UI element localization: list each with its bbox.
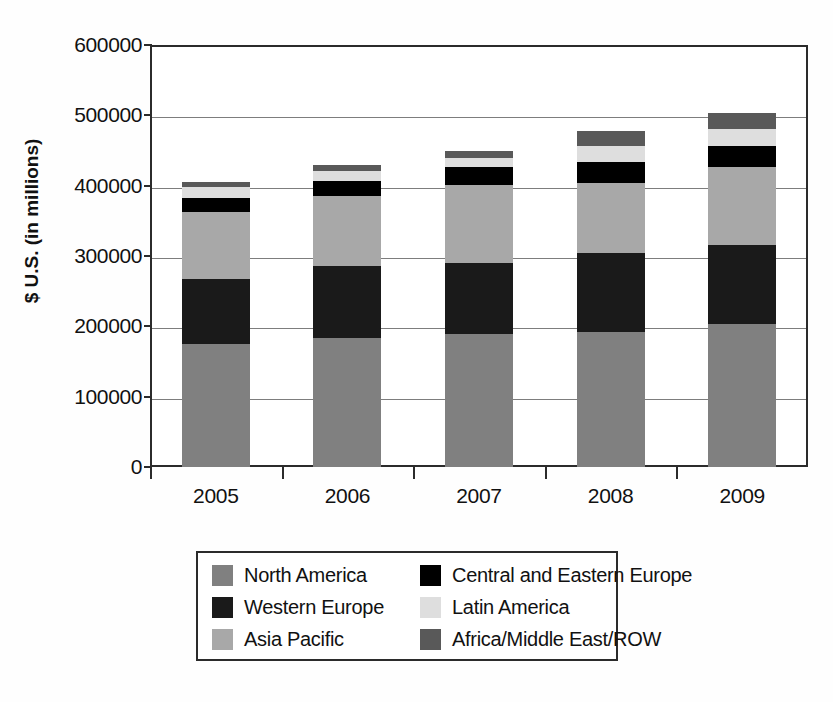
bar-segment [313,165,381,171]
bar-2005 [182,182,250,467]
bar-segment [445,185,513,263]
stacked-bar-chart: $ U.S. (in millions) 0100000200000300000… [0,0,833,702]
legend-label: Central and Eastern Europe [452,564,692,587]
y-tick-label: 100000 [74,385,142,409]
bar-segment [313,266,381,338]
y-tick-label: 400000 [74,174,142,198]
bar-segment [445,158,513,168]
x-tick-label-2005: 2005 [161,484,271,508]
legend-swatch-icon [212,565,233,586]
legend-swatch-icon [212,597,233,618]
bar-2008 [577,131,645,467]
y-tick-label: 200000 [74,314,142,338]
legend-item[interactable]: Asia Pacific [212,626,344,652]
legend-swatch-icon [420,565,441,586]
legend-item[interactable]: North America [212,562,367,588]
y-tick-label: 300000 [74,244,142,268]
bar-segment [445,334,513,467]
bar-segment [182,344,250,467]
bar-segment [313,181,381,196]
bar-segment [708,324,776,467]
bar-segment [708,167,776,244]
bar-segment [577,162,645,183]
bar-segment [445,263,513,334]
legend-swatch-icon [212,629,233,650]
bar-segment [708,129,776,146]
bar-2007 [445,151,513,468]
bar-segment [445,151,513,158]
bars-layer [150,45,808,467]
x-tick-mark [282,467,284,479]
x-tick-label-2009: 2009 [687,484,797,508]
y-tick-label: 0 [131,455,142,479]
legend-label: Asia Pacific [244,628,344,651]
y-tick-label: 500000 [74,103,142,127]
legend: North AmericaCentral and Eastern EuropeW… [196,551,618,661]
legend-label: Western Europe [244,596,384,619]
y-axis-tick-labels: 0100000200000300000400000500000600000 [0,0,142,512]
bar-segment [182,198,250,213]
legend-item[interactable]: Central and Eastern Europe [420,562,692,588]
bar-segment [313,171,381,181]
bar-segment [708,146,776,168]
bar-segment [577,332,645,467]
bar-segment [182,212,250,279]
legend-label: North America [244,564,367,587]
bar-segment [182,187,250,198]
x-tick-label-2007: 2007 [424,484,534,508]
y-tick-label: 600000 [74,33,142,57]
bar-2009 [708,113,776,467]
bar-segment [577,146,645,162]
x-tick-label-2006: 2006 [292,484,402,508]
bar-segment [182,182,250,187]
legend-item[interactable]: Western Europe [212,594,384,620]
bar-segment [577,183,645,253]
x-tick-mark [676,467,678,479]
x-tick-mark [545,467,547,479]
bar-segment [708,245,776,324]
bar-2006 [313,165,381,467]
legend-swatch-icon [420,629,441,650]
x-tick-mark [150,467,152,479]
bar-segment [313,196,381,266]
x-tick-mark [413,467,415,479]
bar-segment [577,253,645,332]
legend-label: Africa/Middle East/ROW [452,628,661,651]
x-tick-label-2008: 2008 [556,484,666,508]
legend-item[interactable]: Latin America [420,594,569,620]
bar-segment [708,113,776,128]
legend-label: Latin America [452,596,569,619]
bar-segment [445,167,513,185]
bar-segment [313,338,381,467]
legend-swatch-icon [420,597,441,618]
bar-segment [182,279,250,344]
legend-item[interactable]: Africa/Middle East/ROW [420,626,661,652]
bar-segment [577,131,645,146]
